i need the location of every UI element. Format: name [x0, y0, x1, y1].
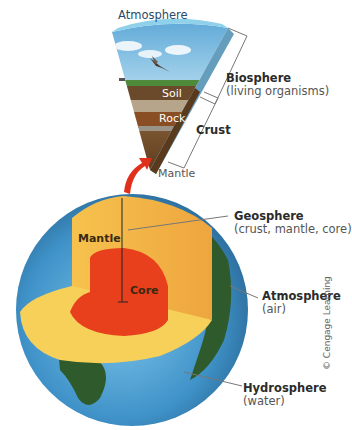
- wedge-mantle-label: Mantle: [158, 167, 195, 180]
- geosphere-subtitle: (crust, mantle, core): [234, 223, 352, 236]
- globe-core-label: Core: [130, 284, 159, 297]
- globe: [16, 194, 248, 426]
- wedge-soil-label: Soil: [162, 87, 182, 100]
- copyright-credit: © Cengage Learning: [322, 276, 332, 370]
- wedge-rock-label: Rock: [159, 112, 185, 125]
- wedge-atmosphere-label: Atmosphere: [118, 8, 188, 22]
- globe-mantle-label: Mantle: [78, 232, 121, 245]
- hydrosphere-callout: Hydrosphere (water): [243, 382, 326, 408]
- biosphere-callout: Biosphere (living organisms): [226, 72, 329, 98]
- arrow-icon: [124, 158, 152, 194]
- hydrosphere-subtitle: (water): [243, 395, 326, 408]
- biosphere-subtitle: (living organisms): [226, 85, 329, 98]
- crust-title: Crust: [196, 124, 231, 137]
- animal-icon: [119, 78, 125, 81]
- crust-callout: Crust: [196, 124, 231, 137]
- geosphere-callout: Geosphere (crust, mantle, core): [234, 210, 352, 236]
